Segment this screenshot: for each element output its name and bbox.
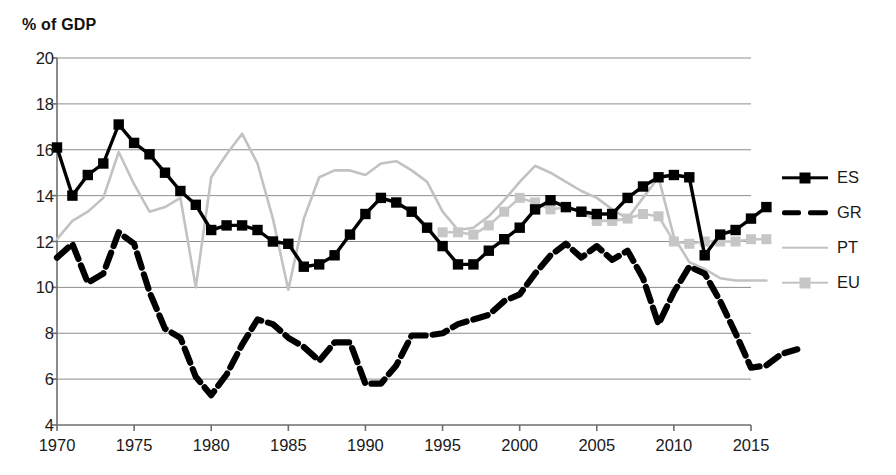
x-tick-2000: 2000 bbox=[501, 436, 538, 455]
x-tick-2005: 2005 bbox=[578, 436, 615, 455]
y-tick-16: 16 bbox=[20, 140, 54, 159]
y-tick-12: 12 bbox=[20, 232, 54, 251]
x-tick-2015: 2015 bbox=[733, 436, 770, 455]
x-tick-1980: 1980 bbox=[193, 436, 230, 455]
x-tick-1995: 1995 bbox=[424, 436, 461, 455]
legend-label-es: ES bbox=[837, 169, 859, 186]
y-tick-6: 6 bbox=[20, 370, 54, 389]
legend-item-pt[interactable]: PT bbox=[782, 230, 890, 265]
legend-item-gr[interactable]: GR bbox=[782, 195, 890, 230]
x-tick-1985: 1985 bbox=[270, 436, 307, 455]
series-eu bbox=[438, 193, 772, 249]
x-tick-1970: 1970 bbox=[39, 436, 76, 455]
y-axis-tick-labels: 468101214161820 bbox=[10, 0, 54, 475]
y-tick-10: 10 bbox=[20, 278, 54, 297]
legend-swatch-pt-icon bbox=[782, 239, 828, 257]
x-tick-1975: 1975 bbox=[116, 436, 153, 455]
legend-label-eu: EU bbox=[837, 274, 860, 291]
legend-item-eu[interactable]: EU bbox=[782, 265, 890, 300]
legend-label-pt: PT bbox=[837, 239, 858, 256]
x-tick-2010: 2010 bbox=[656, 436, 693, 455]
legend-swatch-es-icon bbox=[782, 169, 828, 187]
y-tick-8: 8 bbox=[20, 324, 54, 343]
legend-label-gr: GR bbox=[837, 204, 862, 221]
chart-legend: ESGRPTEU bbox=[782, 160, 890, 300]
y-tick-14: 14 bbox=[20, 186, 54, 205]
y-tick-4: 4 bbox=[20, 416, 54, 435]
chart-figure: % of GDP 468101214161820 197019751980198… bbox=[0, 0, 896, 475]
legend-item-es[interactable]: ES bbox=[782, 160, 890, 195]
legend-swatch-eu-icon bbox=[782, 274, 828, 292]
legend-swatch-gr-icon bbox=[782, 204, 828, 222]
data-series-layer bbox=[52, 119, 798, 395]
chart-plot-area bbox=[0, 0, 896, 475]
x-tick-1990: 1990 bbox=[347, 436, 384, 455]
chart-axes bbox=[52, 58, 751, 431]
y-tick-18: 18 bbox=[20, 94, 54, 113]
y-tick-20: 20 bbox=[20, 49, 54, 68]
